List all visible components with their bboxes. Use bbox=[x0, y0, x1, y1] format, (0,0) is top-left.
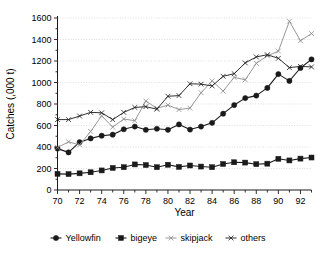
marker-filled-square bbox=[176, 164, 181, 169]
x-tick-label: 80 bbox=[163, 196, 173, 206]
marker-filled-circle bbox=[143, 127, 148, 132]
data-series-group bbox=[55, 19, 314, 177]
series-bigeye bbox=[55, 155, 314, 177]
marker-filled-square bbox=[154, 165, 159, 170]
marker-filled-circle bbox=[99, 133, 104, 138]
series-yellowfin bbox=[55, 57, 314, 155]
series-line bbox=[58, 21, 312, 147]
marker-cross bbox=[287, 19, 292, 24]
marker-filled-square bbox=[265, 161, 270, 166]
marker-filled-square bbox=[287, 158, 292, 163]
x-axis-title: Year bbox=[174, 207, 195, 218]
marker-filled-circle bbox=[165, 127, 170, 132]
chart-figure: 02004006008001000120014001600 7072747678… bbox=[0, 0, 324, 255]
legend-label: skipjack bbox=[181, 233, 214, 243]
marker-filled-square bbox=[210, 165, 215, 170]
marker-filled-square bbox=[99, 168, 104, 173]
legend-label: Yellowfin bbox=[66, 233, 101, 243]
marker-filled-square bbox=[165, 162, 170, 167]
marker-filled-square bbox=[66, 172, 71, 177]
marker-cross bbox=[199, 90, 204, 95]
marker-filled-circle bbox=[221, 111, 226, 116]
marker-filled-circle bbox=[243, 95, 248, 100]
marker-filled-circle bbox=[309, 57, 314, 62]
series-line bbox=[58, 55, 312, 120]
marker-cross bbox=[166, 103, 171, 108]
marker-filled-square bbox=[276, 156, 281, 161]
y-tick-label: 0 bbox=[46, 185, 51, 195]
marker-filled-square bbox=[132, 162, 137, 167]
marker-filled-square bbox=[254, 162, 259, 167]
x-tick-label: 88 bbox=[251, 196, 261, 206]
marker-filled-circle bbox=[110, 132, 115, 137]
marker-filled-square bbox=[298, 156, 303, 161]
y-tick-label: 800 bbox=[36, 99, 51, 109]
marker-filled-circle bbox=[187, 127, 192, 132]
marker-filled-square bbox=[119, 236, 124, 241]
x-tick-label: 90 bbox=[273, 196, 283, 206]
marker-cross bbox=[110, 117, 115, 122]
x-tick-label: 84 bbox=[207, 196, 217, 206]
gridlines bbox=[58, 18, 312, 169]
x-tick-label: 76 bbox=[119, 196, 129, 206]
y-tick-label: 1400 bbox=[31, 35, 51, 45]
marker-filled-circle bbox=[88, 136, 93, 141]
marker-filled-square bbox=[121, 165, 126, 170]
marker-filled-square bbox=[309, 155, 314, 160]
x-tick-label: 70 bbox=[52, 196, 62, 206]
marker-cross bbox=[265, 53, 270, 58]
legend-label: others bbox=[241, 233, 267, 243]
marker-filled-circle bbox=[121, 127, 126, 132]
legend-item-skipjack[interactable]: skipjack bbox=[166, 233, 214, 243]
legend-item-bigeye[interactable]: bigeye bbox=[116, 233, 158, 243]
x-tick-label: 74 bbox=[97, 196, 107, 206]
marker-cross bbox=[88, 129, 93, 134]
marker-filled-square bbox=[77, 171, 82, 176]
marker-filled-circle bbox=[66, 150, 71, 155]
series-skipjack bbox=[55, 19, 314, 150]
marker-filled-circle bbox=[265, 85, 270, 90]
chart-legend: Yellowfinbigeyeskipjackothers bbox=[51, 233, 267, 243]
y-axis-ticks: 02004006008001000120014001600 bbox=[31, 13, 57, 195]
y-axis-title: Catches (,000 t) bbox=[5, 68, 16, 139]
x-tick-label: 72 bbox=[75, 196, 85, 206]
marker-cross bbox=[276, 56, 281, 61]
x-axis-ticks: 707274767880828486889092 bbox=[52, 190, 311, 206]
legend-item-yellowfin[interactable]: Yellowfin bbox=[51, 233, 101, 243]
y-tick-label: 600 bbox=[36, 121, 51, 131]
marker-cross bbox=[276, 49, 281, 54]
marker-cross bbox=[121, 110, 126, 115]
marker-filled-square bbox=[232, 160, 237, 165]
marker-filled-circle bbox=[198, 124, 203, 129]
marker-cross bbox=[77, 114, 82, 119]
series-line bbox=[58, 158, 312, 175]
marker-filled-square bbox=[199, 164, 204, 169]
catches-line-chart: 02004006008001000120014001600 7072747678… bbox=[0, 0, 324, 255]
marker-filled-circle bbox=[53, 235, 58, 240]
marker-cross bbox=[254, 61, 259, 66]
legend-item-others[interactable]: others bbox=[226, 233, 267, 243]
marker-filled-square bbox=[110, 165, 115, 170]
marker-filled-circle bbox=[287, 78, 292, 83]
x-tick-label: 82 bbox=[185, 196, 195, 206]
series-line bbox=[58, 59, 312, 152]
marker-filled-square bbox=[55, 171, 60, 176]
x-tick-label: 92 bbox=[295, 196, 305, 206]
y-tick-label: 1000 bbox=[31, 78, 51, 88]
marker-filled-circle bbox=[232, 102, 237, 107]
axis-lines bbox=[58, 16, 312, 190]
marker-cross bbox=[298, 38, 303, 43]
marker-filled-square bbox=[88, 170, 93, 175]
x-tick-label: 86 bbox=[229, 196, 239, 206]
marker-filled-circle bbox=[132, 124, 137, 129]
marker-cross bbox=[309, 31, 314, 36]
marker-filled-circle bbox=[176, 122, 181, 127]
marker-filled-circle bbox=[210, 120, 215, 125]
marker-cross bbox=[210, 78, 215, 83]
marker-filled-square bbox=[221, 161, 226, 166]
marker-filled-square bbox=[143, 163, 148, 168]
marker-filled-square bbox=[188, 163, 193, 168]
marker-filled-circle bbox=[276, 72, 281, 77]
legend-label: bigeye bbox=[131, 233, 158, 243]
x-tick-label: 78 bbox=[141, 196, 151, 206]
